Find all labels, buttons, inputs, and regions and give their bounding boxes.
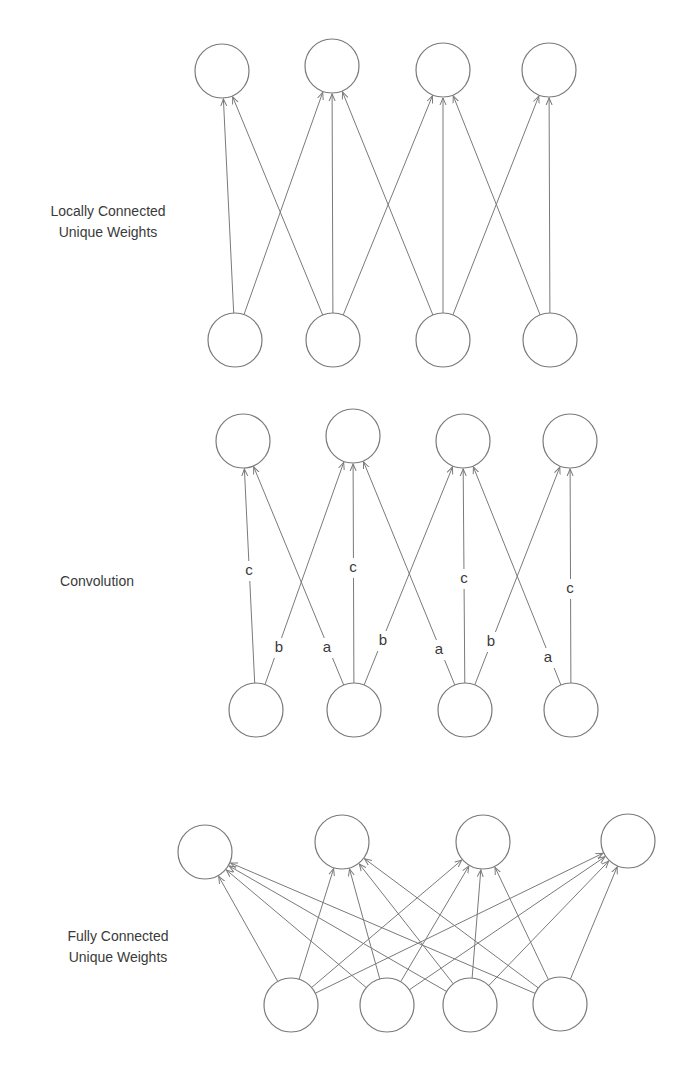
top-node-circle xyxy=(178,825,232,879)
bottom-node-circle xyxy=(523,313,577,367)
edge-arrow xyxy=(453,96,539,315)
edge-arrow xyxy=(472,870,481,978)
weight-label: c xyxy=(566,579,574,596)
bottom-node-circle xyxy=(208,313,262,367)
label-locally-connected: Locally Connected Unique Weights xyxy=(18,201,198,243)
top-node-circle xyxy=(543,414,597,468)
weight-label: a xyxy=(544,648,553,665)
edge-arrow xyxy=(299,869,334,980)
edge-arrow xyxy=(350,869,380,979)
top-node-circle xyxy=(305,39,359,93)
bottom-node-circle xyxy=(443,978,497,1032)
edge-arrow xyxy=(229,866,446,992)
weight-label: c xyxy=(460,569,468,586)
label-line: Unique Weights xyxy=(18,222,198,243)
label-line: Fully Connected xyxy=(28,926,208,947)
weight-label: a xyxy=(435,640,444,657)
weight-label: a xyxy=(323,638,332,655)
top-node-circle xyxy=(456,815,510,869)
bottom-node-circle xyxy=(544,683,598,737)
label-fully-connected: Fully Connected Unique Weights xyxy=(28,926,208,968)
weight-label: b xyxy=(379,631,387,648)
edge-arrow xyxy=(244,92,323,314)
top-node-circle xyxy=(522,43,576,97)
weight-label: c xyxy=(245,561,253,578)
weight-label: c xyxy=(349,558,357,575)
edge-arrow xyxy=(343,96,432,315)
edge-arrow xyxy=(226,870,366,988)
top-node-circle xyxy=(326,409,380,463)
bottom-node-circle xyxy=(264,978,318,1032)
bottom-node-circle xyxy=(416,313,470,367)
edge-arrow xyxy=(570,867,617,979)
top-node-circle xyxy=(195,44,249,98)
bottom-node-circle xyxy=(360,978,414,1032)
edge-arrow xyxy=(549,98,550,313)
top-node-circle xyxy=(436,414,490,468)
section-locally-connected xyxy=(195,39,577,367)
edge-arrow xyxy=(409,857,605,990)
bottom-node-circle xyxy=(533,977,587,1031)
section-convolution: cbacbacbac xyxy=(216,409,598,737)
label-convolution: Convolution xyxy=(7,571,187,592)
bottom-node-circle xyxy=(229,683,283,737)
edge-arrow xyxy=(332,94,333,313)
edge-arrow xyxy=(570,469,571,683)
edge-arrow xyxy=(223,99,233,313)
top-node-circle xyxy=(216,414,270,468)
bottom-node-circle xyxy=(306,313,360,367)
top-node-circle xyxy=(601,814,655,868)
edge-arrow xyxy=(219,876,278,981)
edge-arrow xyxy=(343,92,433,315)
weight-label: b xyxy=(275,638,283,655)
top-node-circle xyxy=(315,815,369,869)
bottom-node-circle xyxy=(327,683,381,737)
edge-arrow xyxy=(365,859,539,988)
bottom-node-circle xyxy=(438,683,492,737)
edge-arrow xyxy=(231,863,536,993)
label-line: Locally Connected xyxy=(18,201,198,222)
label-line: Convolution xyxy=(7,571,187,592)
neural-network-diagram: cbacbacbac xyxy=(0,0,697,1073)
top-node-circle xyxy=(416,43,470,97)
section-fully-connected xyxy=(178,814,655,1032)
label-line: Unique Weights xyxy=(28,947,208,968)
edge-arrow xyxy=(315,853,603,993)
weight-label: b xyxy=(487,632,495,649)
edge-arrow xyxy=(312,860,462,987)
